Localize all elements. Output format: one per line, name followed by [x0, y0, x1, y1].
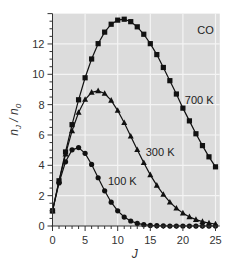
chart-canvas: 0246810120510152025 700 K300 K100 KCOJnJ… — [0, 0, 230, 278]
square-marker — [161, 65, 166, 70]
x-tick-label: 10 — [112, 234, 124, 246]
y-tick-label: 8 — [38, 99, 44, 111]
molecule-label: CO — [197, 24, 214, 36]
circle-marker — [96, 175, 101, 180]
square-marker — [135, 24, 140, 29]
square-marker — [76, 97, 81, 102]
square-marker — [154, 52, 159, 57]
square-marker — [141, 32, 146, 37]
circle-marker — [102, 188, 107, 193]
circle-marker — [128, 218, 133, 223]
square-marker — [102, 30, 107, 35]
square-marker — [148, 41, 153, 46]
circle-marker — [69, 147, 74, 152]
y-tick-label: 2 — [38, 190, 44, 202]
square-marker — [200, 143, 205, 148]
y-tick-label: 12 — [32, 38, 44, 50]
y-axis-title: nJ / n0 — [7, 103, 23, 135]
y-tick-label: 4 — [38, 159, 44, 171]
square-marker — [180, 106, 185, 111]
square-marker — [167, 78, 172, 83]
y-tick-label: 0 — [38, 220, 44, 232]
square-marker — [187, 118, 192, 123]
series-label: 100 K — [108, 175, 137, 187]
square-marker — [96, 41, 101, 46]
square-marker — [206, 154, 211, 159]
circle-marker — [76, 145, 81, 150]
y-tick-label: 10 — [32, 68, 44, 80]
circle-marker — [109, 200, 114, 205]
x-axis-title: J — [131, 247, 139, 261]
square-marker — [83, 75, 88, 80]
square-marker — [193, 131, 198, 136]
circle-marker — [135, 221, 140, 226]
x-tick-label: 15 — [144, 234, 156, 246]
circle-marker — [63, 159, 68, 164]
square-marker — [174, 91, 179, 96]
square-marker — [128, 19, 133, 24]
series-label: 300 K — [146, 146, 175, 158]
square-marker — [115, 18, 120, 23]
x-tick-label: 5 — [82, 234, 88, 246]
series-label: 700 K — [185, 94, 214, 106]
circle-marker — [89, 162, 94, 167]
circle-marker — [56, 180, 61, 185]
square-marker — [109, 22, 114, 27]
circle-marker — [83, 151, 88, 156]
plot-panel — [53, 14, 220, 226]
x-tick-label: 0 — [49, 234, 55, 246]
circle-marker — [115, 208, 120, 213]
x-tick-label: 25 — [209, 234, 221, 246]
square-marker — [122, 17, 127, 22]
square-marker — [89, 56, 94, 61]
circle-marker — [122, 214, 127, 219]
plot-background — [53, 14, 220, 226]
y-tick-label: 6 — [38, 129, 44, 141]
x-tick-label: 20 — [177, 234, 189, 246]
square-marker — [213, 164, 218, 169]
